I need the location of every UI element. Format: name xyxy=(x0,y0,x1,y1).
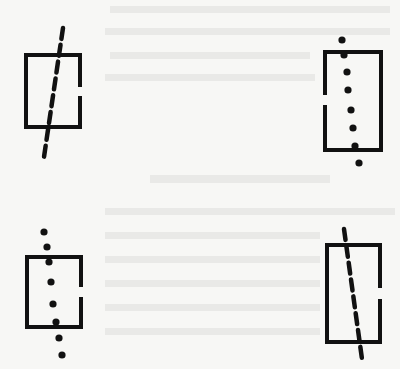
axis-dot xyxy=(49,300,56,307)
dashed-axis-line xyxy=(44,28,63,157)
panel-top-right xyxy=(325,36,381,166)
axis-dot xyxy=(343,68,350,75)
open-rectangle xyxy=(325,52,381,150)
axis-dot xyxy=(40,228,47,235)
figure-canvas xyxy=(0,0,400,369)
axis-dot xyxy=(58,351,65,358)
axis-dot xyxy=(349,124,356,131)
axis-dot xyxy=(52,318,59,325)
axis-dot xyxy=(43,243,50,250)
open-rectangle xyxy=(327,245,380,342)
axis-dot xyxy=(344,86,351,93)
panel-bottom-right xyxy=(327,229,380,359)
open-rectangle xyxy=(27,257,81,327)
axis-dot xyxy=(355,159,362,166)
axis-dot xyxy=(55,334,62,341)
panel-bottom-left xyxy=(27,228,81,358)
axis-dot xyxy=(338,36,345,43)
axis-dot xyxy=(340,51,347,58)
dotted-axis-line xyxy=(40,228,65,358)
panel-top-left xyxy=(26,28,80,157)
axis-dot xyxy=(45,258,52,265)
dashed-axis-line xyxy=(344,229,362,359)
axis-dot xyxy=(47,278,54,285)
axis-dot xyxy=(347,106,354,113)
axis-dot xyxy=(351,142,358,149)
dotted-axis-line xyxy=(338,36,362,166)
